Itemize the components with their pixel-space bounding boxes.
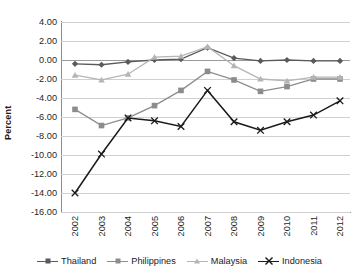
data-point-triangle <box>72 72 79 78</box>
data-point-square <box>284 84 290 90</box>
data-point-triangle <box>204 44 211 50</box>
chart-container: Percent 4.002.000.00-2.00-4.00-6.00-8.00… <box>0 0 359 274</box>
series-indonesia <box>72 87 344 196</box>
legend-label: Malaysia <box>211 256 247 266</box>
legend-label: Indonesia <box>282 256 322 266</box>
legend-item-malaysia[interactable]: Malaysia <box>187 256 247 267</box>
series-line <box>75 90 340 193</box>
data-point-diamond <box>257 58 263 64</box>
chart-legend: ThailandPhilippinesMalaysiaIndonesia <box>0 250 359 272</box>
y-axis-tick: -16.00 <box>15 207 57 217</box>
legend-label: Thailand <box>61 256 96 266</box>
x-axis-tick: 2002 <box>70 216 80 236</box>
data-point-cross <box>204 87 211 94</box>
y-axis-tick: -4.00 <box>15 93 57 103</box>
y-axis-tick: 4.00 <box>15 17 57 27</box>
y-axis-tick: -14.00 <box>15 188 57 198</box>
legend-item-thailand[interactable]: Thailand <box>37 256 96 267</box>
y-axis-tick: -2.00 <box>15 74 57 84</box>
x-axis-tick: 2010 <box>282 216 292 236</box>
gridline <box>61 212 350 213</box>
data-point-diamond <box>72 61 78 67</box>
data-point-diamond <box>125 59 131 65</box>
data-point-square <box>231 77 237 83</box>
data-point-square <box>99 123 105 129</box>
data-point-diamond <box>98 62 104 68</box>
x-axis-tick: 2007 <box>203 216 213 236</box>
legend-marker-diamond-icon <box>37 256 58 267</box>
data-point-cross <box>98 151 105 158</box>
x-axis-tick: 2012 <box>335 216 345 236</box>
legend-label: Philippines <box>131 256 175 266</box>
x-axis-tick: 2008 <box>229 216 239 236</box>
data-point-diamond <box>337 58 343 64</box>
data-point-square <box>152 103 158 109</box>
x-axis-tick-labels: 2002200320042005200620072008200920102011… <box>61 214 351 250</box>
y-axis-tick: -12.00 <box>15 169 57 179</box>
legend-item-philippines[interactable]: Philippines <box>107 256 175 267</box>
y-axis-title: Percent <box>0 88 16 158</box>
plot-area <box>61 22 350 212</box>
data-point-cross <box>337 98 344 105</box>
series-layer <box>61 22 350 212</box>
x-axis-tick: 2011 <box>309 216 319 236</box>
data-point-cross <box>72 190 79 197</box>
y-axis-tick: 2.00 <box>15 36 57 46</box>
x-axis-tick: 2005 <box>150 216 160 236</box>
data-point-square <box>72 107 78 113</box>
y-axis-tick-labels: 4.002.000.00-2.00-4.00-6.00-8.00-10.00-1… <box>16 0 60 225</box>
data-point-square <box>205 69 211 75</box>
y-axis-tick: -10.00 <box>15 150 57 160</box>
x-axis-tick: 2009 <box>256 216 266 236</box>
data-point-square <box>258 89 264 95</box>
y-axis-tick: -6.00 <box>15 112 57 122</box>
legend-marker-square-icon <box>107 256 128 267</box>
y-axis-tick: 0.00 <box>15 55 57 65</box>
y-axis-tick: -8.00 <box>15 131 57 141</box>
data-point-diamond <box>284 57 290 63</box>
data-point-diamond <box>310 58 316 64</box>
legend-marker-cross-icon <box>258 256 279 267</box>
data-point-diamond <box>231 55 237 61</box>
legend-item-indonesia[interactable]: Indonesia <box>258 256 322 267</box>
legend-marker-triangle-icon <box>187 256 208 267</box>
x-axis-tick: 2003 <box>97 216 107 236</box>
x-axis-tick: 2006 <box>176 216 186 236</box>
data-point-square <box>178 88 184 94</box>
x-axis-tick: 2004 <box>123 216 133 236</box>
data-point-triangle <box>125 71 132 77</box>
